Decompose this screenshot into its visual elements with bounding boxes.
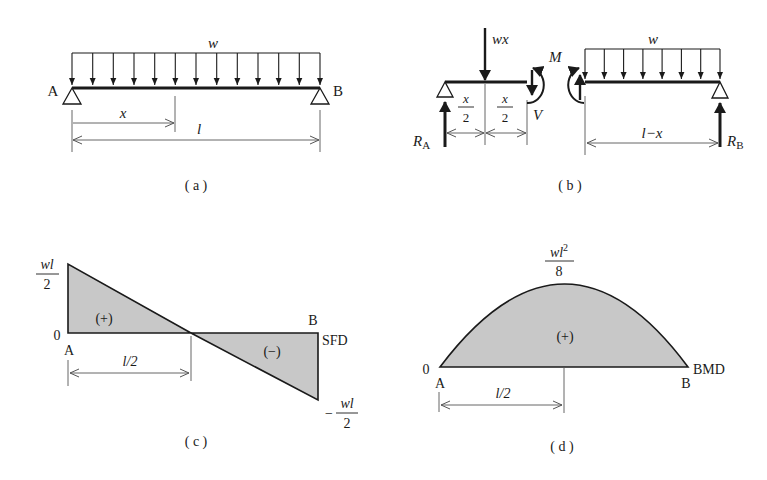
beam-diagram-figure: w A B x l ( a ) wx RA — [0, 0, 767, 480]
sfd-dim-half-label: l/2 — [123, 354, 138, 369]
half-x-fraction-right: x 2 — [497, 91, 513, 125]
bmd-parabola-region — [440, 284, 688, 367]
panel-d-bending-moment-diagram: wl2 8 (+) 0 A B BMD l/2 ( d ) — [423, 242, 725, 455]
bmd-dim-half-label: l/2 — [496, 386, 511, 401]
sfd-b-label: B — [308, 313, 317, 328]
sfd-a-label: A — [64, 343, 75, 358]
svg-text:x: x — [501, 91, 508, 106]
svg-text:2: 2 — [344, 416, 351, 431]
dim-l-label: l — [197, 121, 201, 137]
svg-text:wl: wl — [40, 257, 53, 272]
load-intensity-label: w — [208, 35, 218, 51]
caption-c: ( c ) — [185, 434, 208, 450]
caption-b: ( b ) — [558, 178, 582, 194]
load-intensity-label: w — [648, 31, 658, 47]
svg-text:2: 2 — [44, 277, 51, 292]
half-x-fraction-left: x 2 — [458, 91, 474, 125]
bmd-positive-sign: (+) — [556, 329, 574, 345]
dim-x-label: x — [119, 105, 127, 121]
panel-c-shear-force-diagram: wl 2 0 A B SFD (+) (−) l/2 − wl 2 ( c ) — [36, 257, 358, 450]
resultant-load-label: wx — [492, 31, 509, 47]
sfd-negative-region — [191, 333, 318, 400]
pin-support-a-icon — [63, 88, 81, 104]
support-b-label: B — [333, 83, 343, 99]
sfd-min-value: − wl 2 — [325, 396, 358, 431]
sfd-title-label: SFD — [322, 333, 348, 348]
sfd-positive-sign: (+) — [95, 311, 113, 327]
svg-text:8: 8 — [556, 264, 563, 279]
panel-b-free-body-diagrams: wx RA x 2 x 2 V M — [412, 28, 744, 194]
distributed-load-arrows — [585, 49, 720, 79]
svg-text:x: x — [462, 91, 469, 106]
svg-text:wl2: wl2 — [550, 242, 568, 260]
bmd-zero-label: 0 — [423, 362, 430, 377]
reaction-a-label: RA — [412, 133, 430, 151]
sfd-max-value: wl 2 — [36, 257, 59, 292]
caption-a: ( a ) — [185, 178, 208, 194]
svg-text:2: 2 — [502, 110, 509, 125]
half-dimension-lines — [447, 84, 527, 145]
sfd-negative-sign: (−) — [263, 344, 281, 360]
roller-support-b-icon — [712, 82, 728, 98]
bmd-max-value: wl2 8 — [545, 242, 574, 279]
caption-d: ( d ) — [550, 439, 574, 455]
roller-support-b-icon — [311, 88, 329, 104]
support-a-label: A — [48, 83, 59, 99]
sfd-zero-label: 0 — [54, 328, 61, 343]
sfd-positive-region — [68, 264, 191, 333]
moment-arc-right-icon — [568, 68, 584, 103]
svg-text:2: 2 — [463, 110, 470, 125]
pin-support-a-icon — [437, 82, 453, 97]
shear-label: V — [533, 107, 544, 123]
bmd-title-label: BMD — [693, 362, 725, 377]
svg-text:−: − — [325, 406, 333, 421]
moment-arc-left-icon — [527, 68, 544, 103]
svg-text:wl: wl — [340, 396, 353, 411]
bmd-a-label: A — [435, 376, 446, 391]
dim-l-minus-x-label: l−x — [642, 125, 663, 141]
distributed-load-arrows — [72, 53, 320, 85]
bmd-b-label: B — [681, 376, 690, 391]
reaction-b-label: RB — [726, 133, 744, 151]
panel-a-simply-supported-beam: w A B x l ( a ) — [48, 35, 343, 194]
moment-label: M — [548, 49, 563, 65]
